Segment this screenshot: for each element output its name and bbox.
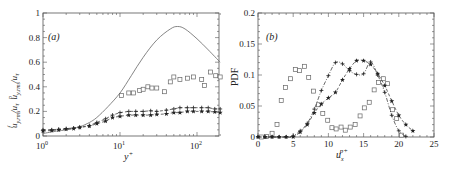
x-tick-label: 10 (324, 139, 334, 149)
panel-a-frame (43, 13, 219, 136)
panel-b-ticks (258, 13, 434, 137)
y-tick-label: 0.8 (29, 33, 41, 43)
series-fluid (43, 27, 220, 134)
panel-a-label: (a) (48, 31, 60, 43)
svg-text:uy,rmsf/uτuy,rmsp/uτ: uy,rmsf/uτuy,rmsp/uτ (7, 73, 21, 128)
y-tick-label: 0.2 (29, 106, 40, 116)
y-tick-label: 0.4 (29, 82, 41, 92)
series-particles-squares (120, 70, 223, 97)
x-tick-label: 100 (36, 140, 48, 151)
series-particles-plus (41, 106, 222, 132)
y-tick-label: 0.2 (244, 8, 255, 18)
x-tick-label: 102 (190, 140, 202, 151)
x-tick-label: 20 (394, 139, 404, 149)
y-tick-label: 0.15 (239, 39, 255, 49)
panel-b-series (256, 58, 416, 139)
x-tick-label: 25 (430, 139, 440, 149)
y-tick-label: 0.1 (244, 70, 255, 80)
x-tick-label: 15 (359, 139, 369, 149)
panel-b-x-axis-label: uxp+ (336, 147, 348, 162)
x-tick-label: 5 (291, 139, 296, 149)
panel-a-x-tick-labels: 100101102 (36, 140, 202, 151)
panel-b-y-tick-labels: 00.050.10.150.2 (239, 8, 255, 142)
x-tick-label: 101 (113, 140, 125, 151)
panel-a-x-axis-label: y+ (123, 150, 133, 162)
figure: 00.20.40.60.81 100101102 (a) y+ uy,rmsf/… (0, 0, 452, 169)
y-tick-label: 0 (36, 131, 41, 141)
panel-a-y-axis-label: uy,rmsf/uτuy,rmsp/uτ (7, 73, 21, 128)
panel-a-rms-velocity: 00.20.40.60.81 100101102 (a) y+ uy,rmsf/… (7, 8, 223, 162)
panel-b-frame (258, 13, 434, 137)
panel-a-series (41, 27, 223, 134)
y-tick-label: 0.05 (239, 101, 255, 111)
y-tick-label: 0 (251, 132, 256, 142)
series-squares (260, 64, 404, 139)
panel-b-label: (b) (266, 31, 278, 43)
x-tick-label: 0 (256, 139, 261, 149)
panel-b-pdf: 00.050.10.150.2 0510152025 (b) uxp+ PDF (229, 8, 439, 162)
figure-canvas: 00.20.40.60.81 100101102 (a) y+ uy,rmsf/… (0, 0, 452, 169)
panel-b-y-axis-label: PDF (229, 67, 240, 86)
y-tick-label: 1 (36, 8, 41, 18)
y-tick-label: 0.6 (29, 57, 41, 67)
panel-a-y-tick-labels: 00.20.40.60.81 (29, 8, 41, 141)
